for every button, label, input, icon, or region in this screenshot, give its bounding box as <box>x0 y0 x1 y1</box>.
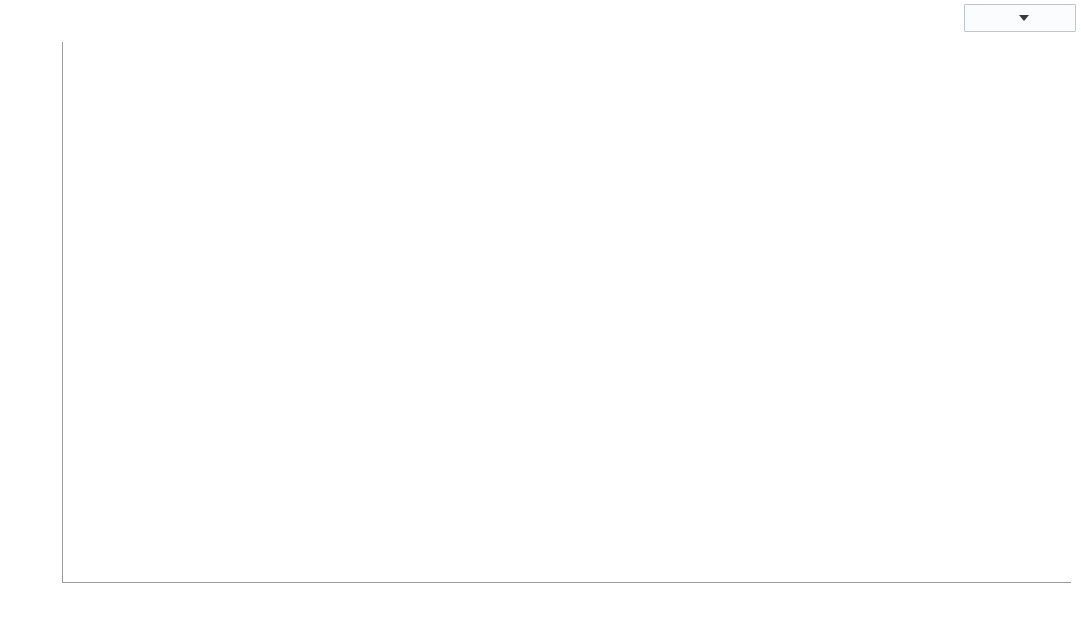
y-axis-line <box>62 42 63 583</box>
chart-plot-area <box>63 42 1070 582</box>
x-axis-line <box>62 582 1071 583</box>
chart-canvas <box>63 42 1070 582</box>
chevron-down-icon <box>1019 15 1029 21</box>
options-button[interactable] <box>964 4 1076 32</box>
